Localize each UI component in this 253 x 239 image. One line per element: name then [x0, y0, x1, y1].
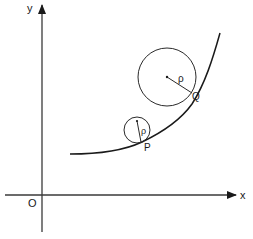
point-q-label: Q [192, 91, 200, 102]
large-circle-center [166, 76, 168, 78]
small-radius-label: ρ [141, 126, 146, 136]
small-circle-center [136, 120, 138, 122]
y-axis-label: y [27, 2, 33, 14]
x-axis-label: x [240, 189, 246, 201]
point-p-label: P [144, 142, 151, 153]
large-radius-label: ρ [178, 73, 184, 84]
origin-label: O [28, 197, 37, 209]
curvature-diagram: y x O ρ Q ρ P [0, 0, 253, 239]
